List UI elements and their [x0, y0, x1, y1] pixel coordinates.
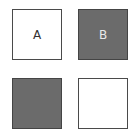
tile-bottom-right[interactable]: [78, 78, 128, 129]
tile-b-label: B: [99, 28, 107, 42]
tile-bottom-left[interactable]: [12, 78, 62, 129]
tile-b[interactable]: B: [78, 9, 128, 60]
tile-a[interactable]: A: [12, 9, 62, 60]
tile-a-label: A: [33, 28, 41, 42]
